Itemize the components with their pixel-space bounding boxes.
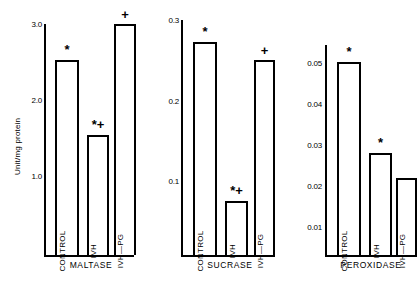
bar-peroxidase-ivh[interactable]: * IVH	[369, 153, 392, 255]
bar-label-sucrase-ivh: IVH	[229, 244, 237, 258]
significance-marker-sucrase-control: *	[202, 27, 207, 37]
panel-caption-sucrase: SUCRASE	[181, 261, 279, 270]
y-tick-label-sucrase-2: 0.2	[155, 98, 179, 106]
bar-label-peroxidase-ivh: IVH	[373, 244, 381, 258]
bar-maltase-ivh[interactable]: *+ IVH	[87, 135, 109, 255]
y-tick-label-maltase-3: 3.0	[18, 21, 42, 29]
y-tick-label-maltase-1: 1.0	[18, 173, 42, 181]
y-tick-label-peroxidase-1: 0.01	[292, 224, 322, 232]
panel-caption-peroxidase: PEROXIDASE	[321, 261, 417, 270]
y-axis-line-sucrase	[181, 20, 183, 257]
significance-marker-maltase-ivh: *+	[92, 120, 105, 130]
y-tick-label-peroxidase-2: 0.02	[292, 183, 322, 191]
y-tick-label-sucrase-3: 0.3	[155, 17, 179, 25]
y-tick-label-maltase-2: 2.0	[18, 97, 42, 105]
y-axis-title: Unit/mg protein	[14, 118, 22, 175]
panel-peroxidase: 0.05 0.04 0.03 0.02 0.01 * CONTROL * IVH…	[288, 0, 417, 282]
bar-peroxidase-control[interactable]: * CONTROL	[337, 62, 361, 255]
figure-bar-chart-enzyme-activities: Unit/mg protein 3.0 2.0 1.0 * CONTROL *+…	[0, 0, 417, 282]
bar-peroxidase-ivh-pg[interactable]: IVH—PG	[396, 178, 417, 255]
bar-maltase-ivh-pg[interactable]: + IVH—PG	[114, 24, 136, 255]
y-axis-line-peroxidase	[325, 45, 327, 257]
y-tick-label-peroxidase-5: 0.05	[292, 60, 322, 68]
y-axis-line-maltase	[44, 24, 46, 257]
significance-marker-peroxidase-ivh: *	[378, 138, 383, 148]
panel-maltase: Unit/mg protein 3.0 2.0 1.0 * CONTROL *+…	[0, 0, 148, 282]
significance-marker-maltase-ivh-pg: +	[121, 10, 129, 20]
y-tick-label-sucrase-1: 0.1	[155, 178, 179, 186]
bar-sucrase-ivh[interactable]: *+ IVH	[225, 201, 248, 255]
bar-maltase-control[interactable]: * CONTROL	[55, 60, 79, 255]
panel-caption-maltase: MALTASE	[44, 261, 138, 270]
bar-label-maltase-ivh: IVH	[90, 244, 98, 258]
panel-sucrase: 0.3 0.2 0.1 * CONTROL *+ IVH + IVH—PG SU…	[148, 0, 288, 282]
significance-marker-maltase-control: *	[64, 45, 69, 55]
y-tick-label-peroxidase-3: 0.03	[292, 142, 322, 150]
bar-sucrase-ivh-pg[interactable]: + IVH—PG	[254, 60, 275, 255]
significance-marker-sucrase-ivh: *+	[230, 186, 243, 196]
bar-sucrase-control[interactable]: * CONTROL	[193, 42, 217, 255]
y-tick-label-peroxidase-4: 0.04	[292, 101, 322, 109]
significance-marker-peroxidase-control: *	[346, 47, 351, 57]
significance-marker-sucrase-ivh-pg: +	[261, 46, 269, 56]
